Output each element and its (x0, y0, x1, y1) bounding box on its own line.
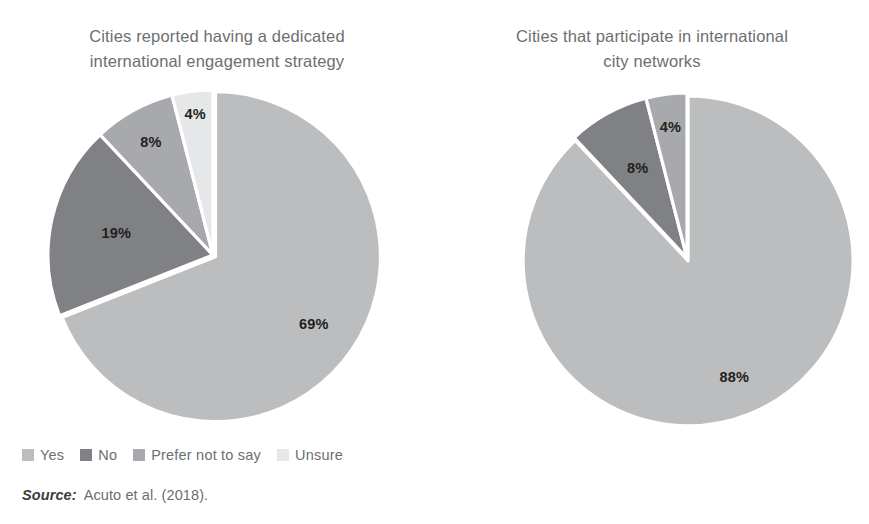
pie-slice-label: 8% (627, 160, 648, 176)
chart-title-line-1: Cities reported having a dedicated (0, 24, 434, 49)
pie-slice-label: 4% (660, 119, 681, 135)
chart-title-line-2: international engagement strategy (0, 49, 434, 74)
legend-swatch-icon (133, 449, 145, 461)
chart-panel-strategy: Cities reported having a dedicated inter… (0, 0, 434, 524)
pie-svg-strategy: 69%19%8%4% (43, 85, 383, 425)
legend-swatch-icon (277, 449, 289, 461)
chart-title-networks: Cities that participate in international… (435, 24, 869, 74)
pie-slices (523, 93, 853, 426)
pie-slice-label: 19% (102, 225, 132, 241)
pie-slice-label: 4% (185, 106, 206, 122)
pie-slice-label: 69% (299, 316, 329, 332)
legend-label: No (98, 447, 117, 463)
legend-label: Prefer not to say (151, 447, 261, 463)
source-text: Acuto et al. (2018). (84, 487, 209, 503)
pie-slices (48, 90, 380, 422)
pie-chart-figure: Cities reported having a dedicated inter… (0, 0, 869, 524)
source-note: Source:Acuto et al. (2018). (22, 487, 208, 503)
legend-item[interactable]: Prefer not to say (133, 447, 261, 463)
legend-label: Unsure (295, 447, 343, 463)
pie-svg-networks: 88%8%4% (517, 88, 857, 428)
legend-item[interactable]: No (80, 447, 117, 463)
pie-slice-label: 88% (719, 369, 749, 385)
chart-title-line-2: city networks (435, 49, 869, 74)
chart-panel-networks: Cities that participate in international… (435, 0, 869, 524)
pie-slice-label: 8% (140, 134, 161, 150)
chart-title-strategy: Cities reported having a dedicated inter… (0, 24, 434, 74)
legend-swatch-icon (22, 449, 34, 461)
chart-title-line-1: Cities that participate in international (435, 24, 869, 49)
pie-chart-networks: 88%8%4% (517, 88, 857, 428)
legend-strategy: YesNoPrefer not to sayUnsure (22, 446, 343, 464)
legend-swatch-icon (80, 449, 92, 461)
legend-label: Yes (40, 447, 64, 463)
pie-chart-strategy: 69%19%8%4% (43, 85, 383, 425)
source-label: Source: (22, 487, 77, 503)
legend-item[interactable]: Yes (22, 447, 64, 463)
legend-item[interactable]: Unsure (277, 447, 343, 463)
